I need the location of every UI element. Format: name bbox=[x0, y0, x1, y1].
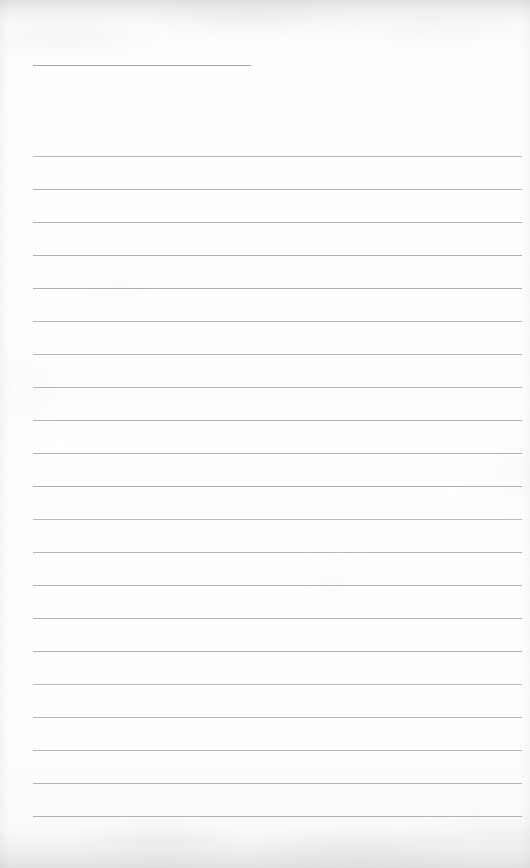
ruled-line bbox=[33, 255, 522, 256]
ruled-line bbox=[33, 321, 522, 322]
ruled-line bbox=[33, 387, 522, 388]
ruled-line bbox=[33, 816, 522, 817]
ruled-line bbox=[33, 420, 522, 421]
ruled-line bbox=[33, 684, 522, 685]
ruled-line bbox=[33, 156, 522, 157]
ruled-line bbox=[33, 552, 522, 553]
ruled-line bbox=[33, 585, 522, 586]
ruled-line bbox=[33, 783, 522, 784]
ruled-lines-layer bbox=[0, 0, 530, 868]
ruled-line bbox=[33, 354, 522, 355]
ruled-line bbox=[33, 717, 522, 718]
scanned-page bbox=[0, 0, 530, 868]
ruled-line bbox=[33, 618, 522, 619]
ruled-line bbox=[33, 519, 522, 520]
ruled-line bbox=[33, 222, 522, 223]
ruled-line bbox=[33, 486, 522, 487]
ruled-line bbox=[33, 453, 522, 454]
ruled-line bbox=[33, 288, 522, 289]
ruled-line bbox=[33, 651, 522, 652]
ruled-line bbox=[33, 189, 522, 190]
ruled-line bbox=[33, 750, 522, 751]
